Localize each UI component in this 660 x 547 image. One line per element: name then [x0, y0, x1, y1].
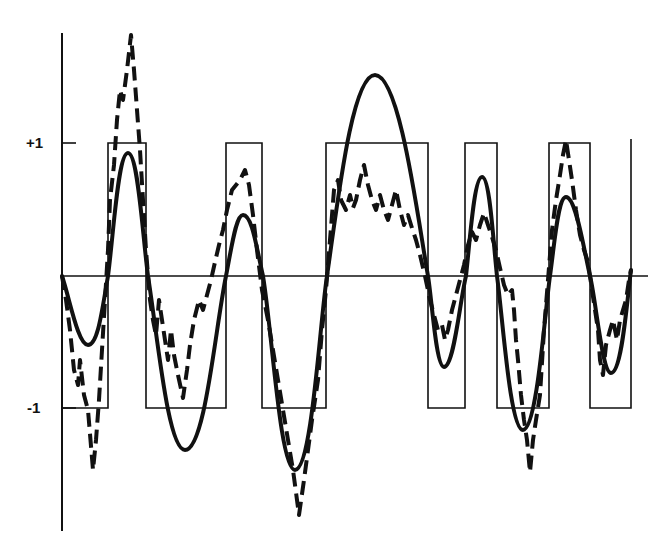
square-wave-fourier-plot [0, 0, 660, 547]
y-tick-label-minus1: -1 [27, 400, 40, 415]
y-tick-label-plus1: +1 [26, 135, 43, 150]
smooth-approximation-curve [62, 75, 631, 470]
